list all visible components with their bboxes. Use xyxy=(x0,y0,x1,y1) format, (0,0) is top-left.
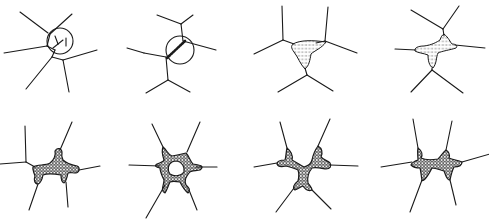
junction-diagram-figure xyxy=(0,0,489,221)
inner-junction-stroke xyxy=(55,36,58,44)
cell-boundary-line xyxy=(455,45,485,48)
cell-boundary-line xyxy=(446,121,452,150)
inner-junction-stroke xyxy=(53,44,58,48)
cell-boundary-line xyxy=(79,166,100,170)
panel-1 xyxy=(4,12,97,92)
highlight-circle xyxy=(166,36,194,64)
cell-boundary-line xyxy=(4,46,47,53)
cell-boundary-line xyxy=(52,57,63,60)
cell-boundary-line xyxy=(144,53,166,57)
junction-vesicle-region xyxy=(33,149,79,184)
junction-vesicle-region xyxy=(292,41,326,69)
cell-boundary-line xyxy=(395,49,416,50)
hatched-junction-line xyxy=(167,41,185,58)
cell-boundary-line xyxy=(282,6,283,40)
cell-boundary-line xyxy=(276,188,294,212)
cell-boundary-line xyxy=(307,75,333,91)
cell-boundary-line xyxy=(166,57,168,80)
cell-boundary-line xyxy=(26,57,52,89)
cell-boundary-line xyxy=(410,180,422,212)
cell-boundary-line xyxy=(381,162,412,167)
junction-vesicle-region xyxy=(277,146,331,191)
panel-5 xyxy=(0,122,100,210)
cell-boundary-line xyxy=(26,162,35,167)
cell-boundary-line xyxy=(181,24,183,41)
panel-4 xyxy=(395,6,485,93)
cell-boundary-line xyxy=(413,119,418,148)
cell-boundary-line xyxy=(443,6,459,29)
cell-boundary-line xyxy=(25,126,26,162)
cell-boundary-line xyxy=(183,41,216,50)
cell-boundary-line xyxy=(254,40,283,54)
cell-boundary-line xyxy=(168,80,190,92)
cell-boundary-line xyxy=(187,122,200,152)
cell-boundary-line xyxy=(325,41,357,53)
inner-junction-stroke xyxy=(58,40,63,44)
panel-2 xyxy=(127,15,216,93)
cell-boundary-line xyxy=(152,124,163,147)
cell-boundary-line xyxy=(189,190,197,210)
junction-vesicle-region xyxy=(411,148,462,181)
panel-8 xyxy=(381,119,489,212)
highlight-circle xyxy=(47,28,73,54)
cell-boundary-line xyxy=(146,185,165,218)
cell-boundary-line xyxy=(283,40,294,44)
cell-boundary-line xyxy=(462,154,489,162)
cell-boundary-line xyxy=(60,122,72,150)
cell-boundary-line xyxy=(411,10,443,29)
junction-vesicle-region xyxy=(156,147,202,193)
cell-boundary-line xyxy=(146,80,168,93)
cell-boundary-line xyxy=(29,184,38,210)
cell-boundary-line xyxy=(63,60,69,92)
cell-boundary-line xyxy=(157,15,181,24)
panel-7 xyxy=(254,119,358,212)
cell-boundary-line xyxy=(411,70,432,92)
cell-boundary-line xyxy=(0,162,26,164)
cell-boundary-line xyxy=(325,7,328,41)
cell-boundary-line xyxy=(305,68,307,75)
cell-boundary-line xyxy=(450,180,456,205)
cell-boundary-line xyxy=(181,15,193,24)
cell-boundary-line xyxy=(127,48,144,53)
panel-6 xyxy=(129,122,217,218)
cell-boundary-line xyxy=(330,165,358,166)
cell-boundary-line xyxy=(280,122,287,148)
cell-boundary-line xyxy=(312,190,331,209)
cell-boundary-line xyxy=(254,163,277,167)
cell-boundary-line xyxy=(20,12,48,33)
diagram-canvas xyxy=(0,0,489,221)
cell-boundary-line xyxy=(278,75,307,92)
bottom-row xyxy=(0,119,489,218)
cell-boundary-line xyxy=(432,70,463,93)
panel-3 xyxy=(254,6,357,92)
top-row xyxy=(4,6,485,93)
cell-boundary-line xyxy=(318,119,330,146)
cell-boundary-line xyxy=(66,182,68,207)
junction-vesicle-region xyxy=(415,34,457,68)
